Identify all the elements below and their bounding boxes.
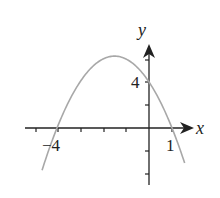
x-tick-label-neg4: −4 <box>42 136 61 155</box>
parabola-curve <box>42 56 185 170</box>
y-tick-label-4: 4 <box>131 73 140 92</box>
parabola-graph: y x −4 1 4 <box>0 0 220 198</box>
x-axis-label: x <box>195 118 204 138</box>
y-axis-label: y <box>136 20 146 40</box>
x-tick-label-1: 1 <box>166 136 175 155</box>
